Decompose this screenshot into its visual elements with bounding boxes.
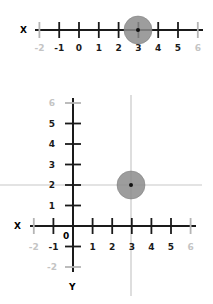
x-axis-tick-label: 6 xyxy=(187,242,193,252)
y-axis-tick-label: 4 xyxy=(49,139,55,149)
number-line: X -2-10123456 xyxy=(20,16,203,53)
y-axis-tick-label: 2 xyxy=(49,180,55,190)
plane-point-dot xyxy=(129,183,133,187)
coordinate-plane: -2-1123456654321-2 X Y 0 xyxy=(0,95,202,296)
number-line-tick-label: 2 xyxy=(115,43,121,53)
number-line-tick-label: -2 xyxy=(34,43,44,53)
number-line-tick-label: 3 xyxy=(135,43,141,53)
origin-label: 0 xyxy=(63,231,69,241)
x-axis-tick-label: 2 xyxy=(109,242,115,252)
number-line-tick-label: 1 xyxy=(96,43,102,53)
y-axis-label: Y xyxy=(68,282,76,292)
number-line-point-dot xyxy=(136,28,140,32)
number-line-tick-label: 5 xyxy=(175,43,181,53)
x-axis-tick-label: 4 xyxy=(148,242,154,252)
number-line-tick-label: 4 xyxy=(155,43,161,53)
number-line-ticks: -2-10123456 xyxy=(34,22,201,53)
number-line-tick-label: 6 xyxy=(195,43,201,53)
number-line-tick-label: 0 xyxy=(76,43,82,53)
x-axis-tick-label: 3 xyxy=(129,242,135,252)
x-axis-tick-label: -1 xyxy=(48,242,58,252)
number-line-tick-label: -1 xyxy=(54,43,64,53)
number-line-axis-label: X xyxy=(20,25,27,35)
y-axis-tick-label: 1 xyxy=(49,201,55,211)
x-axis-label: X xyxy=(14,221,21,231)
x-axis-tick-label: 1 xyxy=(89,242,95,252)
y-axis-tick-label: 3 xyxy=(49,160,55,170)
y-axis-tick-label: 6 xyxy=(49,98,55,108)
y-axis-tick-label: 5 xyxy=(49,119,55,129)
x-axis-tick-label: 5 xyxy=(168,242,174,252)
diagram-canvas: X -2-10123456 -2-1123456654321-2 X Y 0 xyxy=(0,0,213,304)
y-axis-tick-label: -2 xyxy=(47,262,57,272)
x-axis-tick-label: -2 xyxy=(29,242,39,252)
